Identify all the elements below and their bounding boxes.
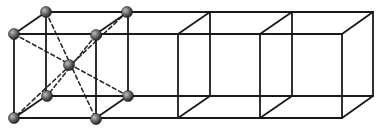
top-depth-edge (342, 12, 373, 34)
atom-corner-back-top-left (41, 7, 52, 18)
atom-corner-back-bottom-right (123, 91, 134, 102)
lattice-svg (0, 0, 382, 134)
atom-corner-front-top-left (9, 29, 20, 40)
atom-corner-front-bottom-left (9, 113, 20, 124)
top-depth-edge (14, 12, 46, 34)
atom-corner-front-bottom-right (91, 114, 102, 125)
top-depth-edge (178, 12, 210, 34)
bottom-depth-edge (96, 96, 128, 118)
bottom-depth-edge (260, 96, 292, 118)
bcc-lattice-diagram: BCC unit cell repeated along a row (0, 0, 382, 134)
top-depth-edge (260, 12, 292, 34)
atom-corner-back-bottom-left (42, 91, 53, 102)
bottom-depth-edge (14, 96, 46, 118)
bottom-depth-edge (178, 96, 210, 118)
atom-corner-front-top-right (91, 30, 102, 41)
bottom-depth-edge (342, 96, 373, 118)
atom-corner-back-top-right (122, 7, 133, 18)
atom-body-center (64, 60, 75, 71)
